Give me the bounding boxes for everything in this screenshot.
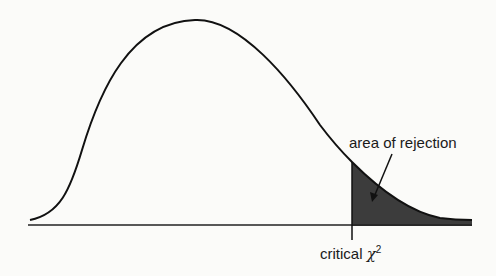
chi-square-diagram: area of rejection critical χ2 [0,0,496,276]
critical-prefix: critical [320,245,363,262]
rejection-area-label: area of rejection [349,134,457,151]
chi-symbol: χ [367,245,376,263]
density-curve [30,20,472,220]
chi-superscript: 2 [376,244,382,255]
critical-value-label: critical χ2 [320,244,381,263]
rejection-region [352,162,472,226]
